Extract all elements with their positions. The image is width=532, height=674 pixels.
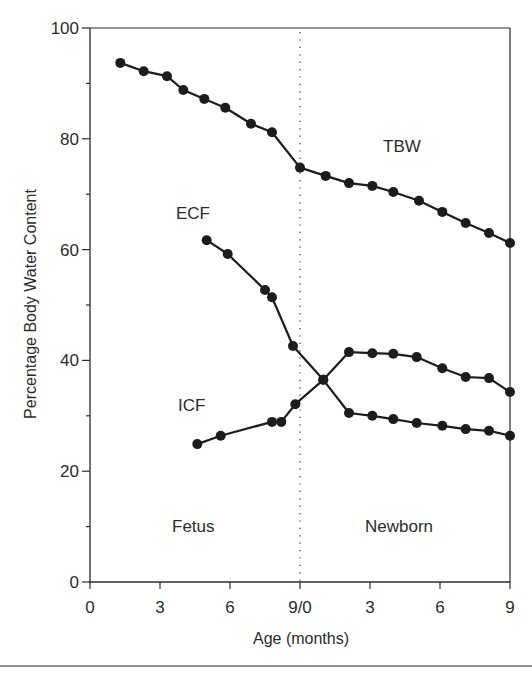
- x-tick-label: 0: [85, 598, 94, 617]
- data-point-marker: [139, 66, 149, 76]
- data-point-marker: [267, 417, 277, 427]
- data-point-marker: [344, 178, 354, 188]
- series-ecf: [202, 235, 515, 441]
- data-point-marker: [202, 235, 212, 245]
- data-point-marker: [220, 103, 230, 113]
- data-point-marker: [505, 387, 515, 397]
- x-axis-ticks: 0369/0369: [85, 582, 514, 617]
- data-point-marker: [223, 249, 233, 259]
- data-point-marker: [414, 196, 424, 206]
- data-point-marker: [367, 411, 377, 421]
- data-point-marker: [199, 94, 209, 104]
- data-point-marker: [178, 85, 188, 95]
- series-line: [207, 240, 510, 436]
- x-tick-label: 3: [155, 598, 164, 617]
- data-point-marker: [505, 431, 515, 441]
- data-point-marker: [276, 417, 286, 427]
- data-point-marker: [437, 421, 447, 431]
- data-point-marker: [484, 373, 494, 383]
- data-point-marker: [115, 58, 125, 68]
- data-point-marker: [388, 187, 398, 197]
- data-point-marker: [484, 426, 494, 436]
- y-tick-label: 0: [70, 573, 79, 592]
- x-tick-label: 9/0: [288, 598, 312, 617]
- data-point-marker: [318, 375, 328, 385]
- data-point-marker: [344, 347, 354, 357]
- y-tick-label: 100: [51, 19, 79, 38]
- y-tick-label: 40: [60, 351, 79, 370]
- data-point-marker: [461, 218, 471, 228]
- x-tick-label: 3: [365, 598, 374, 617]
- x-tick-label: 6: [225, 598, 234, 617]
- tbw-label: TBW: [383, 137, 421, 156]
- data-point-marker: [295, 163, 305, 173]
- data-point-marker: [412, 352, 422, 362]
- data-point-marker: [367, 181, 377, 191]
- data-point-marker: [344, 408, 354, 418]
- data-point-marker: [267, 127, 277, 137]
- data-point-marker: [192, 439, 202, 449]
- icf-label: ICF: [178, 396, 205, 415]
- data-point-marker: [260, 285, 270, 295]
- y-axis-ticks: 020406080100: [51, 19, 90, 592]
- data-point-marker: [484, 228, 494, 238]
- y-axis-title: Percentage Body Water Content: [22, 189, 39, 419]
- body-water-chart: 020406080100 0369/0369 Age (months) Perc…: [0, 0, 532, 674]
- data-point-marker: [461, 372, 471, 382]
- data-point-marker: [461, 424, 471, 434]
- data-point-marker: [388, 414, 398, 424]
- ecf-label: ECF: [176, 204, 210, 223]
- data-point-marker: [267, 292, 277, 302]
- data-point-marker: [216, 431, 226, 441]
- data-point-marker: [288, 341, 298, 351]
- x-tick-label: 9: [505, 598, 514, 617]
- y-tick-label: 60: [60, 241, 79, 260]
- data-point-marker: [388, 349, 398, 359]
- data-point-marker: [321, 171, 331, 181]
- series-layer: [115, 58, 515, 449]
- fetus-label: Fetus: [172, 517, 215, 536]
- data-point-marker: [246, 119, 256, 129]
- x-tick-label: 6: [435, 598, 444, 617]
- data-point-marker: [437, 363, 447, 373]
- data-point-marker: [367, 348, 377, 358]
- y-tick-label: 80: [60, 130, 79, 149]
- newborn-label: Newborn: [365, 517, 433, 536]
- data-point-marker: [162, 71, 172, 81]
- y-tick-label: 20: [60, 462, 79, 481]
- data-point-marker: [290, 399, 300, 409]
- data-point-marker: [437, 207, 447, 217]
- data-point-marker: [412, 418, 422, 428]
- data-point-marker: [505, 238, 515, 248]
- x-axis-title: Age (months): [253, 630, 349, 647]
